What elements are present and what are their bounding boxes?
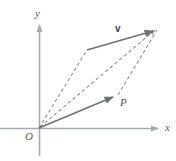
vector-v-label: v xyxy=(115,24,121,34)
vector-arrow-op xyxy=(39,97,113,128)
point-p-label: P xyxy=(120,97,127,108)
dashed-segment-or xyxy=(40,30,155,127)
dashed-segment-oq xyxy=(39,50,87,128)
x-axis-label: x xyxy=(165,122,170,133)
vector-diagram-figure: y x O P v xyxy=(0,0,176,161)
y-axis-label: y xyxy=(35,8,40,19)
origin-label: O xyxy=(25,131,33,142)
